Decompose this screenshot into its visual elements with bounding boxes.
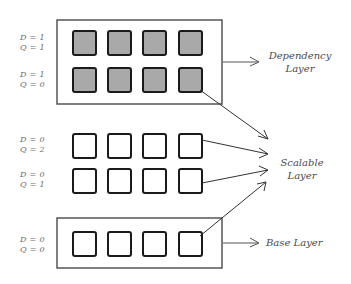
row-label-d0-q2: D = 0 Q = 2 bbox=[20, 135, 45, 155]
svc-diagram: D = 1 Q = 1 D = 1 Q = 0 D = 0 Q = 2 D = … bbox=[0, 0, 351, 284]
row-d0-q0 bbox=[73, 232, 202, 256]
row-d0-q1 bbox=[73, 169, 202, 193]
arrow-to-base-layer bbox=[223, 238, 259, 247]
dependency-layer-label: Dependency Layer bbox=[265, 49, 335, 75]
base-layer-label: Base Layer bbox=[266, 236, 336, 249]
arrows-to-scalable-layer bbox=[200, 90, 268, 236]
row-d1-q1 bbox=[73, 31, 202, 55]
row-d1-q0 bbox=[73, 68, 202, 92]
arrow-to-dependency-layer bbox=[223, 57, 259, 66]
scalable-layer-label: Scalable Layer bbox=[272, 156, 332, 182]
row-d0-q2 bbox=[73, 134, 202, 158]
row-label-d0-q1: D = 0 Q = 1 bbox=[20, 170, 45, 190]
row-label-d1-q0: D = 1 Q = 0 bbox=[20, 70, 45, 90]
row-label-d0-q0: D = 0 Q = 0 bbox=[20, 235, 45, 255]
row-label-d1-q1: D = 1 Q = 1 bbox=[20, 33, 45, 53]
